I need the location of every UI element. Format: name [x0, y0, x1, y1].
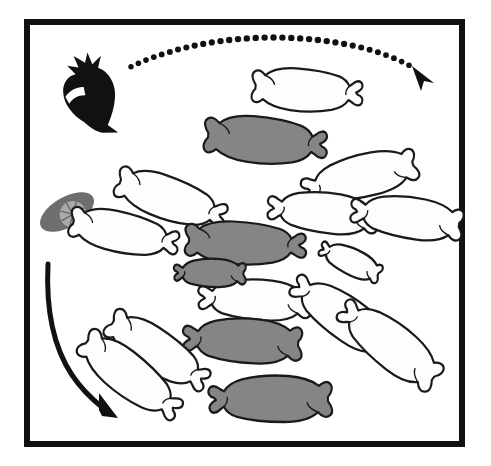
figure-root: Circular group of seals with predator an…: [0, 0, 491, 466]
seal-group-illustration: [0, 0, 491, 466]
